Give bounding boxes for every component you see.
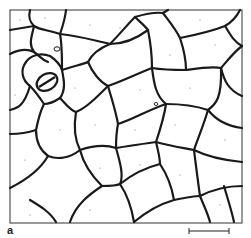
scale-bar [189, 228, 229, 234]
cell-drawing [0, 0, 251, 238]
cell-walls [10, 10, 242, 222]
panel-label: a [7, 224, 13, 236]
